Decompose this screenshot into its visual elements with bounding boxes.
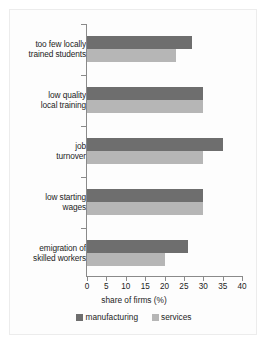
bar-services-3 xyxy=(87,202,203,215)
chart-legend: manufacturing services xyxy=(10,312,258,322)
x-axis-title: share of firms (%) xyxy=(10,295,258,305)
x-tick xyxy=(87,277,88,281)
x-tick xyxy=(242,277,243,281)
category-label-line: trained students xyxy=(0,50,86,60)
x-tick xyxy=(165,277,166,281)
bar-services-4 xyxy=(87,253,165,266)
x-tick xyxy=(145,277,146,281)
bar-services-1 xyxy=(87,100,203,113)
x-tick xyxy=(223,277,224,281)
plot-area: too few locally trained students low qua… xyxy=(10,10,258,336)
category-label-line: skilled workers xyxy=(0,254,86,264)
y-tick xyxy=(81,126,86,127)
x-tick xyxy=(184,277,185,281)
bar-services-2 xyxy=(87,151,203,164)
y-tick xyxy=(81,228,86,229)
bar-manufacturing-0 xyxy=(87,36,192,49)
bar-manufacturing-1 xyxy=(87,87,203,100)
category-label-0: too few locally trained students xyxy=(0,40,86,59)
category-label-line: local training xyxy=(0,101,86,111)
y-tick xyxy=(81,177,86,178)
y-tick xyxy=(81,24,86,25)
category-label-1: low quality local training xyxy=(0,91,86,110)
legend-swatch-icon xyxy=(76,314,83,321)
category-label-4: emigration of skilled workers xyxy=(0,244,86,263)
category-label-line: wages xyxy=(0,203,86,213)
y-tick xyxy=(81,75,86,76)
x-tick-label: 40 xyxy=(231,282,253,291)
legend-item-services: services xyxy=(152,312,191,322)
legend-swatch-icon xyxy=(152,314,159,321)
bar-manufacturing-2 xyxy=(87,138,223,151)
legend-item-manufacturing: manufacturing xyxy=(76,312,138,322)
category-label-3: low starting wages xyxy=(0,193,86,212)
category-label-line: turnover xyxy=(0,152,86,162)
bar-manufacturing-3 xyxy=(87,189,203,202)
x-tick xyxy=(203,277,204,281)
bar-services-0 xyxy=(87,49,176,62)
legend-label: services xyxy=(161,312,191,322)
legend-label: manufacturing xyxy=(85,312,138,322)
category-label-2: job turnover xyxy=(0,142,86,161)
x-tick xyxy=(126,277,127,281)
chart-container: too few locally trained students low qua… xyxy=(9,9,257,335)
y-axis-line xyxy=(86,24,87,277)
bar-manufacturing-4 xyxy=(87,240,188,253)
x-tick xyxy=(106,277,107,281)
